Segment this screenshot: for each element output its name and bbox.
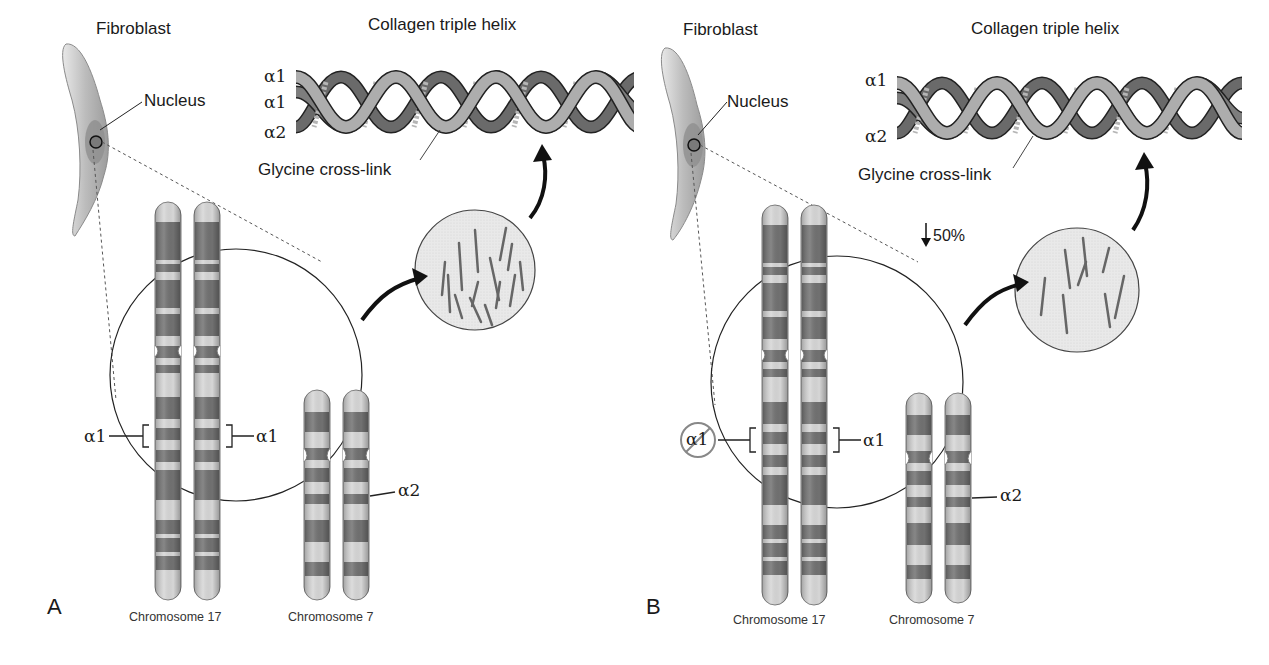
chromosome-7-right bbox=[945, 393, 971, 603]
chromosome-17-label: Chromosome 17 bbox=[733, 614, 825, 627]
alpha1-gene-right-label: α1 bbox=[863, 432, 885, 449]
helix-strand-label: α2 bbox=[865, 128, 887, 145]
panel-label-b: B bbox=[646, 596, 661, 618]
chromosome-17-left bbox=[155, 202, 181, 600]
chromosome-17-pair bbox=[681, 205, 861, 605]
collagen-triple-helix bbox=[296, 77, 634, 127]
chromosome-7-left bbox=[304, 390, 330, 600]
chromosome-7-label: Chromosome 7 bbox=[288, 611, 373, 624]
alpha1-gene-left-label: α1 bbox=[84, 428, 106, 445]
helix-strand-label: α1 bbox=[264, 68, 286, 85]
chromosome-17-label: Chromosome 17 bbox=[129, 611, 221, 624]
nucleus-label: Nucleus bbox=[727, 93, 788, 110]
chromosome-7-right bbox=[343, 390, 369, 600]
alpha2-gene-label: α2 bbox=[1000, 487, 1022, 504]
collagen-fibrils-circle bbox=[1015, 228, 1139, 352]
alpha1-gene-right-label: α1 bbox=[256, 428, 278, 445]
chromosome-7-label: Chromosome 7 bbox=[889, 614, 974, 627]
chromosome-17-right bbox=[801, 205, 827, 605]
helix-strand-label: α1 bbox=[264, 94, 286, 111]
alpha2-gene-label: α2 bbox=[398, 482, 420, 499]
panel-a-graphics bbox=[0, 0, 634, 665]
fibroblast-label: Fibroblast bbox=[683, 21, 758, 38]
helix-title: Collagen triple helix bbox=[971, 20, 1119, 37]
chromosome-17-pair bbox=[109, 202, 254, 600]
helix-strand-label: α1 bbox=[865, 72, 887, 89]
chromosome-7-left bbox=[906, 393, 932, 603]
helix-strand-label: α2 bbox=[264, 124, 286, 141]
fibroblast-cell bbox=[63, 44, 109, 236]
glycine-crosslink-label: Glycine cross-link bbox=[858, 166, 991, 183]
collagen-triple-helix bbox=[897, 83, 1242, 133]
fibroblast-cell bbox=[661, 48, 705, 240]
collagen-fibrils-circle bbox=[415, 210, 535, 330]
chromosome-7-pair bbox=[906, 393, 997, 603]
panel-b: Fibroblast Nucleus Collagen triple helix… bbox=[635, 0, 1269, 665]
panel-a: Fibroblast Nucleus Collagen triple helix… bbox=[0, 0, 634, 665]
chromosome-17-left bbox=[762, 205, 788, 605]
helix-title: Collagen triple helix bbox=[368, 16, 516, 33]
reduction-label: 50% bbox=[933, 228, 965, 244]
nucleus-label: Nucleus bbox=[144, 92, 205, 109]
glycine-crosslink-label: Glycine cross-link bbox=[258, 161, 391, 178]
alpha1-gene-left-label-deleted: α1 bbox=[686, 431, 708, 448]
panel-label-a: A bbox=[47, 596, 62, 618]
chromosome-17-right bbox=[194, 202, 220, 600]
chromosome-7-pair bbox=[304, 390, 395, 600]
fibroblast-label: Fibroblast bbox=[96, 20, 171, 37]
